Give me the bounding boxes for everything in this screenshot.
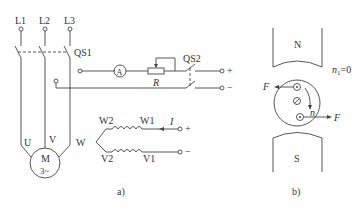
winding-w1: W1 bbox=[140, 115, 154, 126]
label-qs2: QS2 bbox=[183, 53, 201, 64]
resistor-label: R bbox=[152, 77, 159, 88]
south-label: S bbox=[294, 153, 300, 164]
ammeter-label: A bbox=[117, 68, 123, 77]
plus-1: + bbox=[227, 65, 233, 76]
rotation-arc bbox=[305, 88, 310, 107]
motor-type: 3~ bbox=[40, 166, 50, 176]
terminal-l2 bbox=[43, 27, 47, 31]
terminal-plus-2 bbox=[178, 127, 182, 131]
rotation-label: n bbox=[310, 107, 315, 118]
current-label: I bbox=[169, 116, 174, 127]
terminal-dc-a bbox=[78, 69, 82, 73]
coil-v bbox=[112, 150, 142, 153]
label-qs1: QS1 bbox=[74, 47, 92, 58]
current-arrow-icon bbox=[159, 127, 164, 131]
force-arrow-right-icon bbox=[327, 115, 332, 119]
terminal-minus-2 bbox=[178, 150, 182, 154]
coil-w bbox=[112, 127, 142, 130]
minus-1: − bbox=[227, 82, 233, 93]
terminal-u: U bbox=[24, 137, 32, 148]
figure-b: N n1=0 F F n S b) bbox=[262, 28, 351, 198]
label-l1: L1 bbox=[15, 15, 26, 26]
north-label: N bbox=[294, 39, 301, 50]
figure-a: L1 L2 L3 QS1 M 3~ U V W A bbox=[15, 15, 233, 198]
terminal-v: V bbox=[49, 134, 57, 145]
terminal-dc-b bbox=[54, 79, 58, 83]
plus-2: + bbox=[185, 123, 191, 134]
resistor-r bbox=[148, 68, 164, 74]
winding-v1: V1 bbox=[143, 153, 155, 164]
motor-label: M bbox=[41, 153, 50, 164]
caption-b: b) bbox=[292, 186, 300, 198]
qs2-blade-2 bbox=[186, 81, 195, 88]
qs2-blade-1 bbox=[186, 64, 195, 71]
minus-2: − bbox=[185, 146, 191, 157]
diagram-canvas: L1 L2 L3 QS1 M 3~ U V W A bbox=[0, 0, 358, 207]
force-label-right: F bbox=[333, 112, 341, 123]
label-l2: L2 bbox=[39, 15, 50, 26]
terminal-l3 bbox=[68, 27, 72, 31]
speed-label: n1=0 bbox=[332, 64, 351, 77]
terminal-plus-1 bbox=[220, 69, 224, 73]
winding-v2: V2 bbox=[101, 153, 113, 164]
winding-w2: W2 bbox=[99, 115, 113, 126]
force-arrow-left-icon bbox=[274, 85, 279, 89]
terminal-l1 bbox=[19, 27, 23, 31]
terminal-w: W bbox=[76, 137, 86, 148]
caption-a: a) bbox=[117, 186, 125, 198]
force-label-left: F bbox=[262, 81, 270, 92]
rheostat-arrow-icon bbox=[154, 64, 158, 68]
terminal-minus-1 bbox=[220, 86, 224, 90]
label-l3: L3 bbox=[64, 15, 75, 26]
